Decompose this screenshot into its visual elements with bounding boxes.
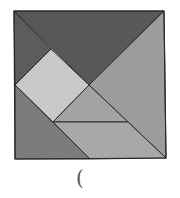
tangram-diagram <box>0 0 180 198</box>
caption-paren: ( <box>76 166 84 190</box>
